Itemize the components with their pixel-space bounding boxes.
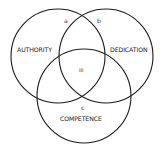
dedication-label: DEDICATION xyxy=(110,46,148,53)
region-label-a: a xyxy=(64,17,68,24)
venn-diagram: AUTHORITY DEDICATION COMPETENCE a b c II… xyxy=(0,0,165,149)
competence-label: COMPETENCE xyxy=(60,115,102,122)
authority-label: AUTHORITY xyxy=(17,46,52,53)
competence-circle xyxy=(37,49,131,143)
dedication-circle xyxy=(59,9,153,103)
region-label-b: b xyxy=(97,17,101,24)
region-label-center: III xyxy=(79,67,83,73)
authority-circle xyxy=(11,9,105,103)
region-label-c: c xyxy=(81,104,84,111)
